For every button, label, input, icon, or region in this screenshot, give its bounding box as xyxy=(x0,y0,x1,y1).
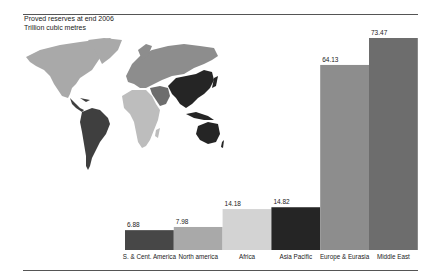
category-label: S. & Cent. America xyxy=(123,253,177,260)
category-label: Middle East xyxy=(377,253,410,260)
value-label: 14.82 xyxy=(273,198,290,205)
bar-europe-eurasia xyxy=(320,65,369,250)
map-region-south-america xyxy=(80,108,110,170)
bar-s-cent-america xyxy=(125,230,174,250)
map-region-africa xyxy=(122,90,160,148)
map-region-australia xyxy=(196,122,220,144)
bar-middle-east xyxy=(369,38,418,250)
map-region-caribbean xyxy=(80,98,90,102)
value-label: 64.13 xyxy=(322,56,339,63)
category-label: Europe & Eurasia xyxy=(320,253,370,261)
chart-canvas: 6.88S. & Cent. America7.98North america1… xyxy=(0,0,438,278)
map-region-central-america xyxy=(70,98,84,112)
category-label: North america xyxy=(178,253,218,260)
bar-asia-pacific xyxy=(271,207,320,250)
bar-africa xyxy=(223,209,272,250)
value-label: 73.47 xyxy=(371,29,388,36)
bar-north-america xyxy=(174,227,223,250)
map-region-indonesia xyxy=(186,112,214,120)
world-map xyxy=(26,38,224,170)
bottom-rule xyxy=(23,270,418,271)
value-label: 6.88 xyxy=(127,221,140,228)
map-region-new-zealand xyxy=(221,140,224,148)
value-label: 14.18 xyxy=(225,200,242,207)
map-region-asia-pacific xyxy=(168,70,214,108)
category-label: Africa xyxy=(239,253,256,260)
map-region-madagascar xyxy=(155,128,160,138)
value-label: 7.98 xyxy=(176,218,189,225)
category-label: Asia Pacific xyxy=(280,253,313,260)
